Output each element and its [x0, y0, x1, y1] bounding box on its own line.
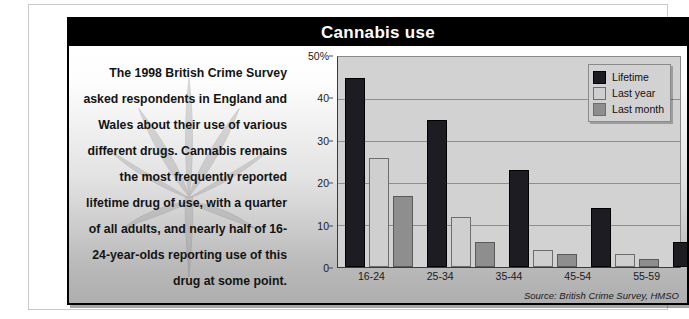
y-tick-label: 30	[317, 135, 329, 147]
x-tick-label: 35-44	[475, 270, 544, 286]
legend-swatch-icon	[593, 103, 606, 116]
bar[interactable]	[673, 242, 687, 267]
x-tick-label: 55-59	[612, 270, 681, 286]
panel-body: The 1998 British Crime Survey asked resp…	[69, 46, 687, 303]
bar-group	[420, 57, 502, 267]
x-axis: 16-2425-3435-4445-5455-59	[337, 270, 681, 286]
y-tick-mark	[329, 56, 333, 57]
x-tick-label: 25-34	[406, 270, 475, 286]
legend-item[interactable]: Lifetime	[593, 69, 664, 85]
y-tick-label: 40	[317, 92, 329, 104]
bar[interactable]	[369, 158, 389, 267]
y-tick-mark	[329, 183, 333, 184]
y-tick-mark	[329, 268, 333, 269]
y-tick-label: 10	[317, 220, 329, 232]
x-tick-label: 16-24	[337, 270, 406, 286]
y-tick-mark	[329, 98, 333, 99]
bar[interactable]	[345, 78, 365, 267]
y-tick-label: 20	[317, 177, 329, 189]
y-tick-label: 50%	[308, 50, 329, 62]
chart-area: 0 10 20 30 40 50%	[301, 46, 687, 303]
outer-frame: Cannabis use	[28, 4, 668, 310]
bar[interactable]	[427, 120, 447, 267]
legend-item[interactable]: Last year	[593, 85, 664, 101]
bar[interactable]	[615, 254, 635, 267]
legend-label: Last month	[612, 103, 664, 115]
bar[interactable]	[393, 196, 413, 267]
page-title: Cannabis use	[321, 23, 435, 43]
source-note: Source: British Crime Survey, HMSO	[524, 290, 679, 301]
bar-group	[502, 57, 584, 267]
blurb-column: The 1998 British Crime Survey asked resp…	[69, 46, 301, 303]
legend-swatch-icon	[593, 87, 606, 100]
legend-swatch-icon	[593, 71, 606, 84]
legend-label: Lifetime	[612, 71, 649, 83]
bar[interactable]	[451, 217, 471, 267]
cannabis-use-panel: Cannabis use	[67, 17, 689, 305]
y-tick-mark	[329, 140, 333, 141]
bar[interactable]	[639, 259, 659, 267]
x-tick-label: 45-54	[543, 270, 612, 286]
infographic-root: Cannabis use	[0, 0, 689, 319]
bar-group	[338, 57, 420, 267]
bar[interactable]	[509, 170, 529, 267]
legend-item[interactable]: Last month	[593, 101, 664, 117]
y-axis: 0 10 20 30 40 50%	[301, 56, 333, 268]
bar[interactable]	[533, 250, 553, 267]
panel-title-bar: Cannabis use	[69, 19, 687, 46]
legend-label: Last year	[612, 87, 655, 99]
bar[interactable]	[591, 208, 611, 267]
blurb-text: The 1998 British Crime Survey asked resp…	[77, 60, 291, 294]
bar[interactable]	[475, 242, 495, 267]
y-tick-mark	[329, 225, 333, 226]
chart-legend: Lifetime Last year Last month	[588, 64, 671, 122]
bar[interactable]	[557, 254, 577, 267]
